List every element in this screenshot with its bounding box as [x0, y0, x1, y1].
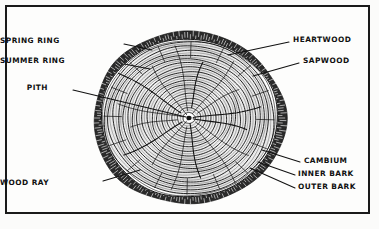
label-summer-ring: SUMMER RING	[0, 57, 44, 64]
label-spring-ring: SPRING RING	[0, 37, 52, 44]
label-outer-bark: OUTER BARK	[298, 183, 356, 190]
label-cambium: CAMBIUM	[304, 157, 347, 164]
tree-cross-section-figure: SPRING RINGSUMMER RINGPITHWOOD RAYHEARTW…	[0, 0, 379, 229]
label-sapwood: SAPWOOD	[303, 57, 349, 64]
label-heartwood: HEARTWOOD	[293, 36, 351, 43]
label-inner-bark: INNER BARK	[298, 170, 354, 177]
label-wood-ray: WOOD RAY	[0, 179, 44, 186]
label-pith: PITH	[0, 84, 48, 91]
trunk-group	[93, 30, 287, 204]
